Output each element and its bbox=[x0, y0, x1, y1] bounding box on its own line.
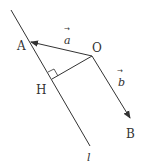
vector-b-label: b bbox=[118, 76, 125, 89]
vector-b-overarrow: → bbox=[117, 67, 123, 75]
point-label-o: O bbox=[92, 41, 102, 55]
line-l bbox=[11, 10, 90, 146]
vector-diagram: A O H B l → a → b bbox=[0, 0, 143, 168]
right-angle-marker bbox=[48, 69, 58, 76]
point-label-b: B bbox=[126, 127, 135, 141]
vector-a-label: a bbox=[64, 34, 71, 47]
vector-a-overarrow: → bbox=[64, 25, 70, 33]
line-label-l: l bbox=[87, 151, 91, 164]
point-label-a: A bbox=[16, 39, 26, 53]
point-label-h: H bbox=[36, 83, 46, 97]
vector-a-arrow bbox=[31, 42, 92, 56]
